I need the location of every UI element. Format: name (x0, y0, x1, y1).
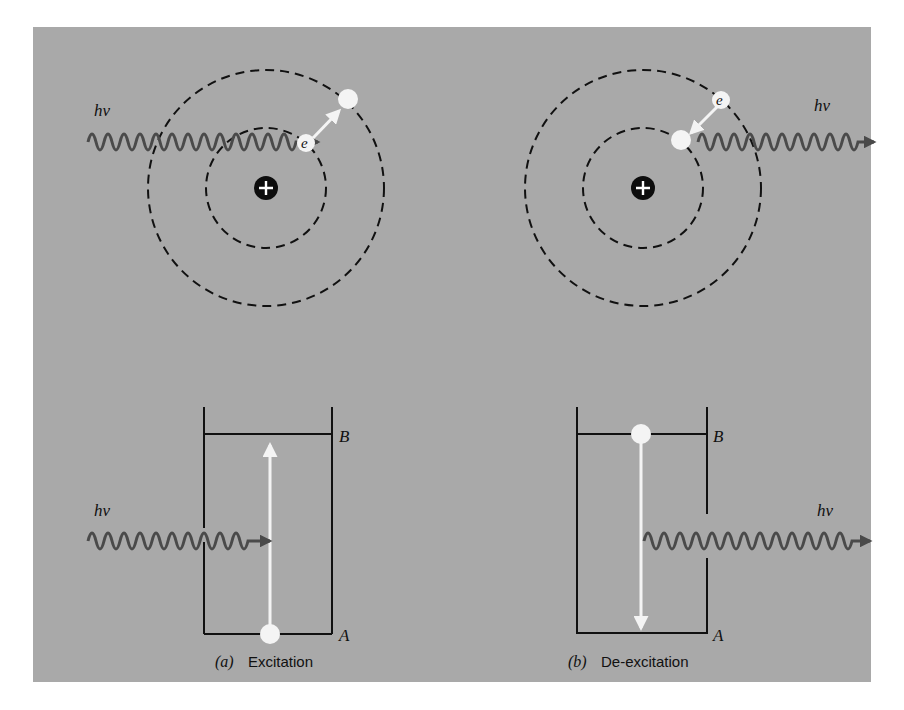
level-a-label: A (338, 626, 350, 645)
photon-label: hν (817, 501, 834, 520)
relaxed-electron-icon (671, 130, 691, 150)
svg-text:e: e (716, 92, 723, 108)
caption-b-text: De-excitation (601, 653, 689, 670)
nucleus-icon (631, 176, 655, 200)
excited-electron-icon (631, 424, 651, 444)
emitted-photon-wave (698, 134, 874, 150)
level-a-label: A (712, 626, 724, 645)
svg-text:e: e (301, 135, 308, 151)
photon-label: hν (94, 101, 111, 120)
photon-label: hν (94, 501, 111, 520)
incoming-photon-wave (88, 533, 270, 549)
level-b-label: B (339, 427, 350, 446)
ground-electron-icon (260, 624, 280, 644)
atom-excitation: hν e (88, 70, 384, 306)
excitation-arrow (313, 111, 339, 138)
de-excitation-arrow (691, 107, 717, 133)
atom-de-excitation: hν e (525, 70, 874, 306)
energy-levels-excitation: B A hν (88, 407, 350, 645)
electron-icon: e (297, 134, 315, 152)
level-b-label: B (713, 427, 724, 446)
energy-levels-de-excitation: B A hν (577, 407, 870, 645)
caption-a-text: Excitation (248, 653, 313, 670)
caption-b-letter: (b) (568, 653, 587, 671)
emitted-photon-wave (644, 533, 870, 549)
photon-label: hν (814, 96, 831, 115)
excited-electron-icon (338, 89, 358, 109)
caption-a: (a) Excitation (215, 653, 313, 671)
caption-a-letter: (a) (215, 653, 234, 671)
incoming-photon-wave (88, 134, 318, 150)
electron-icon: e (712, 91, 730, 109)
nucleus-icon (254, 176, 278, 200)
caption-b: (b) De-excitation (568, 653, 689, 671)
excitation-diagram: hν e hν e B A (0, 0, 904, 710)
